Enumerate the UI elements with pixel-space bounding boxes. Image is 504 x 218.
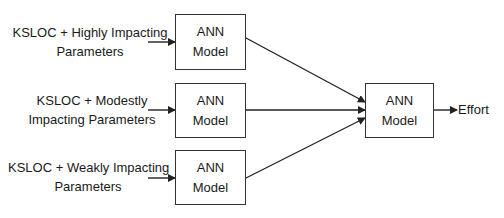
input-label-line: KSLOC + Highly Impacting (10, 24, 170, 42)
input-label-line: Parameters (8, 178, 168, 196)
input-label-line: Parameters (10, 43, 170, 61)
input-label-line: KSLOC + Modestly (12, 92, 172, 110)
ann-model-box-1: ANN Model (175, 14, 246, 70)
box-label: Model (193, 178, 228, 198)
input-label-highly: KSLOC + Highly Impacting Parameters (10, 24, 170, 61)
input-label-weakly: KSLOC + Weakly Impacting Parameters (8, 159, 168, 196)
ann-model-box-2: ANN Model (175, 83, 246, 138)
ann-model-box-3: ANN Model (175, 150, 246, 205)
box-label: Model (382, 111, 417, 131)
box-label: Model (193, 42, 228, 62)
box-label: ANN (197, 22, 224, 42)
input-label-modestly: KSLOC + Modestly Impacting Parameters (12, 92, 172, 129)
final-ann-model-box: ANN Model (365, 83, 434, 138)
box-label: ANN (197, 91, 224, 111)
box-label: ANN (386, 91, 413, 111)
output-label-effort: Effort (458, 101, 489, 119)
input-label-line: KSLOC + Weakly Impacting (8, 159, 168, 177)
box-label: Model (193, 111, 228, 131)
input-label-line: Impacting Parameters (12, 111, 172, 129)
box-label: ANN (197, 158, 224, 178)
